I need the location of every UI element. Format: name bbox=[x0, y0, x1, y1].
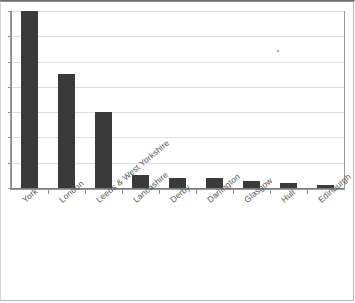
y-axis-tick bbox=[8, 163, 12, 164]
bar bbox=[21, 11, 38, 188]
y-axis-tick bbox=[8, 112, 12, 113]
x-axis-tick bbox=[159, 190, 160, 194]
scan-speckle-artifact bbox=[277, 50, 279, 52]
bar bbox=[95, 112, 112, 188]
x-axis-tick bbox=[196, 190, 197, 194]
chart-page: YorkLondonLeeds & West YorkshireLancashi… bbox=[0, 0, 355, 303]
plot-area bbox=[11, 12, 344, 189]
bar-series bbox=[11, 12, 344, 189]
y-axis-tick bbox=[8, 188, 12, 189]
y-axis-tick bbox=[8, 11, 12, 12]
y-axis-tick bbox=[8, 87, 12, 88]
x-axis-tick bbox=[48, 190, 49, 194]
bar bbox=[206, 178, 223, 188]
x-axis-line bbox=[11, 188, 344, 189]
bar bbox=[58, 74, 75, 188]
y-axis-tick bbox=[8, 36, 12, 37]
bar bbox=[132, 175, 149, 188]
bar bbox=[243, 181, 260, 188]
bar bbox=[169, 178, 186, 188]
y-axis-tick bbox=[8, 62, 12, 63]
x-axis-tick bbox=[85, 190, 86, 194]
x-axis-ticks bbox=[11, 190, 344, 194]
x-axis-tick bbox=[270, 190, 271, 194]
y-axis-tick bbox=[8, 137, 12, 138]
x-axis-tick bbox=[122, 190, 123, 194]
x-axis-tick bbox=[307, 190, 308, 194]
x-axis-tick bbox=[233, 190, 234, 194]
